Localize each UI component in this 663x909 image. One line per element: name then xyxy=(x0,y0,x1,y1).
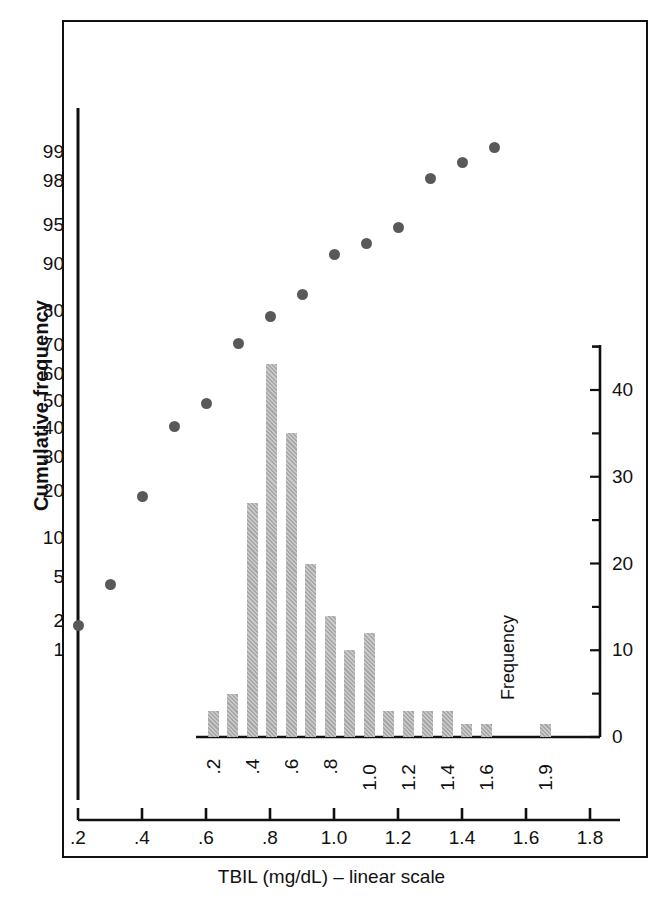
histogram-bar xyxy=(383,711,394,737)
y-tick-left-95: 95 xyxy=(18,215,64,234)
scatter-point xyxy=(233,338,244,349)
y-tick-left-5: 5 xyxy=(18,567,64,586)
x-tick-1.6: 1.6 xyxy=(501,828,551,847)
histogram-bar xyxy=(403,711,414,737)
y-tick-left-60: 60 xyxy=(18,364,64,383)
scatter-point xyxy=(297,289,308,300)
scatter-point xyxy=(425,173,436,184)
scatter-point xyxy=(361,238,372,249)
x-tick-.4: .4 xyxy=(117,828,167,847)
y-tick-left-1: 1 xyxy=(18,640,64,659)
y-tick-right-30: 30 xyxy=(612,467,633,486)
scatter-point xyxy=(137,491,148,502)
y-tick-left-70: 70 xyxy=(18,335,64,354)
x-tick-.2: .2 xyxy=(53,828,103,847)
histogram-bar xyxy=(247,503,258,737)
histogram-bin-label-.2: .2 xyxy=(204,745,223,789)
histogram-bin-label-.4: .4 xyxy=(243,745,262,789)
x-tick-.8: .8 xyxy=(245,828,295,847)
scatter-point xyxy=(393,222,404,233)
scatter-point xyxy=(329,249,340,260)
y-tick-left-80: 80 xyxy=(18,301,64,320)
histogram-bar xyxy=(344,650,355,737)
histogram-bin-label-1.2: 1.2 xyxy=(399,756,418,800)
x-tick-1.0: 1.0 xyxy=(309,828,359,847)
scatter-point xyxy=(489,142,500,153)
x-tick-1.4: 1.4 xyxy=(437,828,487,847)
y-tick-left-10: 10 xyxy=(18,528,64,547)
scatter-point xyxy=(265,311,276,322)
y-tick-left-50: 50 xyxy=(18,391,64,410)
histogram-bar xyxy=(325,616,336,737)
y-tick-left-30: 30 xyxy=(18,447,64,466)
histogram-bin-label-.8: .8 xyxy=(321,745,340,789)
y-tick-left-40: 40 xyxy=(18,418,64,437)
y-tick-left-99: 99 xyxy=(18,142,64,161)
y-tick-right-40: 40 xyxy=(612,380,633,399)
histogram-bin-label-1.9: 1.9 xyxy=(536,756,555,800)
histogram-bin-label-1.6: 1.6 xyxy=(477,756,496,800)
y-tick-left-90: 90 xyxy=(18,254,64,273)
y-tick-right-10: 10 xyxy=(612,640,633,659)
x-tick-1.8: 1.8 xyxy=(565,828,615,847)
histogram-bar xyxy=(286,433,297,737)
histogram-bin-label-1.0: 1.0 xyxy=(360,756,379,800)
histogram-bar xyxy=(442,711,453,737)
histogram-bar xyxy=(422,711,433,737)
scatter-point xyxy=(201,398,212,409)
histogram-bin-label-.6: .6 xyxy=(282,745,301,789)
histogram-bar xyxy=(364,633,375,737)
histogram-bar xyxy=(208,711,219,737)
x-tick-.6: .6 xyxy=(181,828,231,847)
y-axis-right-title: Frequency xyxy=(498,615,519,700)
scatter-point xyxy=(105,579,116,590)
scatter-point xyxy=(457,157,468,168)
histogram-bar xyxy=(481,724,492,737)
y-tick-left-2: 2 xyxy=(18,611,64,630)
y-tick-left-20: 20 xyxy=(18,481,64,500)
scatter-point xyxy=(73,620,84,631)
histogram-bar xyxy=(227,694,238,737)
x-axis-title: TBIL (mg/dL) – linear scale xyxy=(0,866,663,888)
histogram-bar xyxy=(461,724,472,737)
histogram-bin-label-1.4: 1.4 xyxy=(438,756,457,800)
histogram-bar xyxy=(266,364,277,737)
y-tick-right-20: 20 xyxy=(612,554,633,573)
y-tick-right-0: 0 xyxy=(612,727,623,746)
histogram-bar xyxy=(305,564,316,738)
x-tick-1.2: 1.2 xyxy=(373,828,423,847)
scatter-point xyxy=(169,421,180,432)
figure-panel: Cumulative frequency Frequency TBIL (mg/… xyxy=(0,0,663,909)
histogram-bar xyxy=(540,724,551,737)
y-tick-left-98: 98 xyxy=(18,171,64,190)
